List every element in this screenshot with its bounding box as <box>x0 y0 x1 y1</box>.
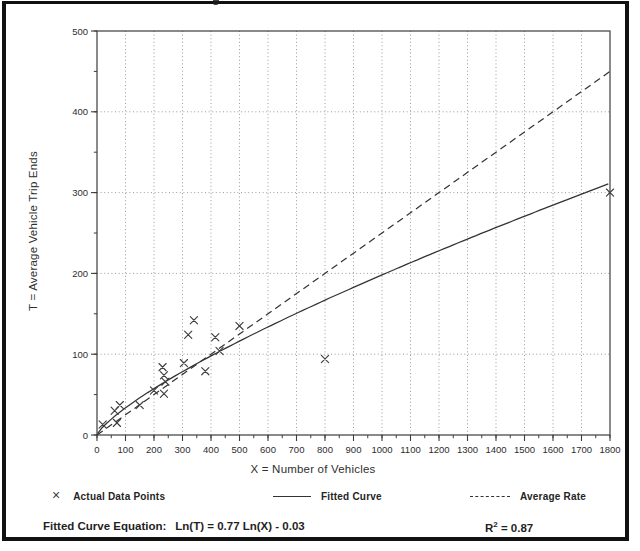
equation-value: Ln(T) = 0.77 Ln(X) - 0.03 <box>175 520 304 532</box>
svg-text:1000: 1000 <box>371 444 392 455</box>
svg-text:300: 300 <box>175 444 191 455</box>
legend-label-average: Average Rate <box>520 491 586 502</box>
svg-text:1600: 1600 <box>542 444 563 455</box>
r2-number: = 0.87 <box>498 522 534 534</box>
legend: × Actual Data Points Fitted Curve Averag… <box>0 487 640 505</box>
svg-text:900: 900 <box>346 444 362 455</box>
svg-text:1100: 1100 <box>400 444 420 455</box>
svg-text:500: 500 <box>232 444 248 455</box>
x-marker-icon: × <box>52 490 60 500</box>
r-squared-value: R2 = 0.87 <box>485 520 533 534</box>
svg-text:700: 700 <box>289 444 305 455</box>
svg-text:400: 400 <box>72 106 88 117</box>
legend-item-average-rate: Average Rate <box>470 487 586 505</box>
svg-text:100: 100 <box>118 444 134 455</box>
y-axis-title: T = Average Vehicle Trip Ends <box>27 151 39 311</box>
legend-item-actual-data-points: × Actual Data Points <box>52 487 165 505</box>
svg-text:1800: 1800 <box>599 444 620 455</box>
trip-generation-chart-page: 0100200300400500600700800900100011001200… <box>0 0 640 551</box>
svg-text:500: 500 <box>72 26 88 37</box>
svg-text:200: 200 <box>146 444 162 455</box>
svg-text:0: 0 <box>83 430 88 441</box>
svg-text:1500: 1500 <box>514 444 535 455</box>
svg-text:400: 400 <box>203 444 219 455</box>
fitted-curve-equation: Fitted Curve Equation:Ln(T) = 0.77 Ln(X)… <box>43 520 305 532</box>
svg-text:1200: 1200 <box>428 444 449 455</box>
legend-label-fitted: Fitted Curve <box>321 491 382 502</box>
svg-text:0: 0 <box>94 444 99 455</box>
dashed-line-icon <box>470 496 510 497</box>
x-axis-title: X = Number of Vehicles <box>233 463 393 475</box>
svg-text:800: 800 <box>317 444 333 455</box>
svg-text:1300: 1300 <box>457 444 478 455</box>
solid-line-icon <box>273 496 311 497</box>
svg-text:200: 200 <box>72 268 88 279</box>
legend-item-fitted-curve: Fitted Curve <box>273 487 382 505</box>
svg-text:1400: 1400 <box>485 444 506 455</box>
legend-label-actual: Actual Data Points <box>73 491 165 502</box>
chart-footer: Fitted Curve Equation:Ln(T) = 0.77 Ln(X)… <box>0 520 640 538</box>
svg-text:600: 600 <box>260 444 276 455</box>
equation-label: Fitted Curve Equation: <box>43 520 166 532</box>
svg-text:1700: 1700 <box>571 444 592 455</box>
svg-text:100: 100 <box>72 349 88 360</box>
svg-text:300: 300 <box>72 187 88 198</box>
